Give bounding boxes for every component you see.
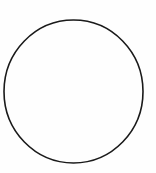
circle-outline: [4, 20, 143, 163]
diagram-svg: [0, 0, 156, 173]
diagram-canvas: [0, 0, 156, 173]
